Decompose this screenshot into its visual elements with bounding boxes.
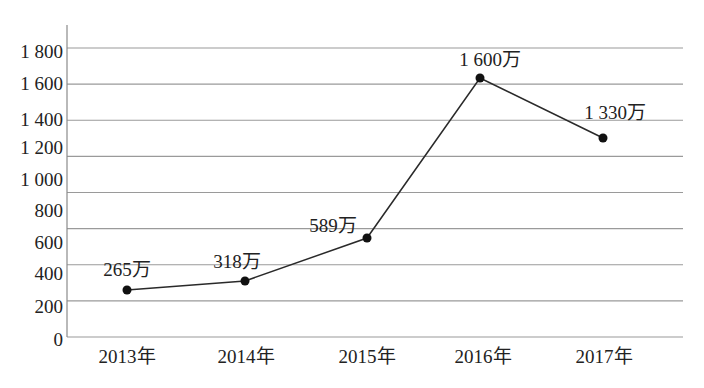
data-point-marker: [599, 134, 608, 143]
data-point-marker: [363, 234, 372, 243]
data-value-label: 318万: [213, 251, 261, 272]
y-tick-label: 1 600: [20, 73, 63, 94]
gridlines: [67, 48, 683, 337]
x-axis-category-labels: 2013年2014年2015年2016年2017年: [99, 346, 633, 367]
x-category-label: 2015年: [339, 346, 396, 367]
y-tick-label: 1 400: [20, 109, 63, 130]
y-tick-label: 600: [35, 232, 64, 253]
x-category-label: 2017年: [576, 346, 633, 367]
data-point-marker: [241, 277, 250, 286]
y-tick-label: 1 800: [20, 41, 63, 62]
x-category-label: 2014年: [218, 346, 275, 367]
series-line: [127, 78, 603, 290]
data-value-label: 1 600万: [459, 49, 521, 70]
data-point-marker: [123, 286, 132, 295]
x-category-label: 2016年: [455, 346, 512, 367]
y-tick-label: 400: [35, 263, 64, 284]
data-point-marker: [476, 74, 485, 83]
data-value-label: 1 330万: [584, 102, 646, 123]
y-axis-tick-labels: 02004006008001 0001 2001 4001 6001 800: [20, 41, 63, 350]
line-chart: 02004006008001 0001 2001 4001 6001 800 2…: [0, 0, 704, 388]
y-tick-label: 200: [35, 296, 64, 317]
y-tick-label: 800: [35, 200, 64, 221]
y-tick-label: 0: [54, 329, 64, 350]
x-category-label: 2013年: [99, 346, 156, 367]
y-tick-label: 1 200: [20, 137, 63, 158]
data-markers: [123, 74, 608, 295]
data-value-label: 265万: [103, 259, 151, 280]
data-value-label: 589万: [309, 215, 357, 236]
y-tick-label: 1 000: [20, 169, 63, 190]
